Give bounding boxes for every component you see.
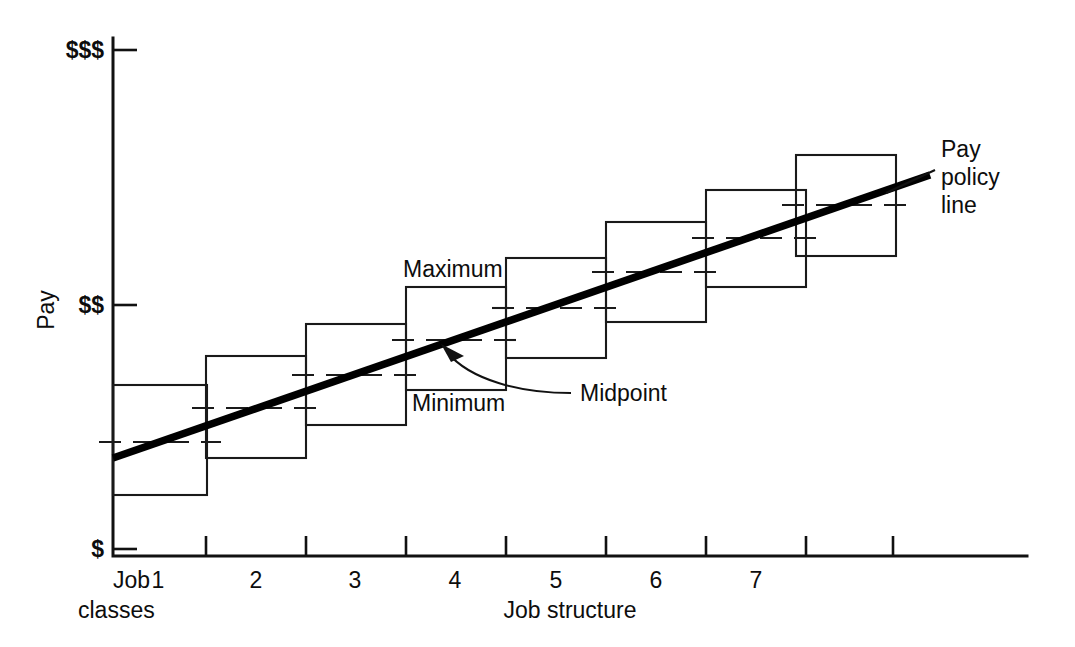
midpoint-arrow-head (441, 344, 464, 362)
x-tick-label-7: 7 (750, 567, 763, 593)
y-tick-label-dollar3: $$$ (66, 37, 105, 63)
x-tick-label-2: 2 (250, 567, 263, 593)
x-tick-label-4: 4 (449, 567, 462, 593)
chart-canvas: $$$ $$ $ Pay 1 2 3 4 5 6 7 Job classes J… (0, 0, 1075, 647)
policy-line-leader (886, 170, 935, 193)
x-tick-label-3: 3 (349, 567, 362, 593)
pay-policy-line (113, 175, 930, 458)
x-axis-title: Job structure (504, 597, 637, 623)
pay-structure-chart: $$$ $$ $ Pay 1 2 3 4 5 6 7 Job classes J… (0, 0, 1075, 647)
y-tick-label-dollar1: $ (91, 536, 104, 562)
annotation-policy-line-2: policy (941, 164, 1000, 190)
x-tick-label-5: 5 (550, 567, 563, 593)
annotation-policy-line-1: Pay (941, 136, 981, 162)
annotation-policy-line-3: line (941, 192, 977, 218)
x-tick-label-6: 6 (650, 567, 663, 593)
annotation-maximum: Maximum (403, 256, 503, 282)
annotation-minimum: Minimum (412, 390, 505, 416)
y-tick-label-dollar2: $$ (78, 292, 104, 318)
origin-label-line1: Job (113, 567, 150, 593)
x-tick-label-1: 1 (152, 567, 165, 593)
y-axis-title: Pay (33, 290, 59, 330)
origin-label-line2: classes (78, 597, 155, 623)
annotation-midpoint: Midpoint (580, 380, 668, 406)
